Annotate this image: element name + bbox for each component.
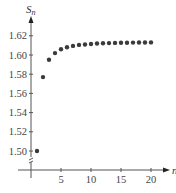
x-axis: 5101520 bbox=[18, 168, 170, 186]
data-point bbox=[95, 41, 99, 45]
x-tick-label: 15 bbox=[116, 174, 127, 185]
y-tick-label: 1.50 bbox=[9, 146, 27, 157]
data-point bbox=[119, 41, 123, 45]
y-tick-label: 1.54 bbox=[9, 107, 28, 118]
data-point bbox=[47, 58, 51, 62]
data-point bbox=[101, 41, 105, 45]
scatter-chart: 1.501.521.541.561.581.601.62 5101520 Sn … bbox=[0, 0, 176, 193]
data-point bbox=[89, 42, 93, 46]
y-tick-label: 1.52 bbox=[9, 126, 27, 137]
x-axis-label: n bbox=[172, 164, 176, 176]
x-tick-label: 10 bbox=[86, 174, 97, 185]
data-point bbox=[125, 41, 129, 45]
data-point bbox=[113, 41, 117, 45]
data-point bbox=[77, 43, 81, 47]
data-point bbox=[59, 47, 63, 51]
x-tick-label: 20 bbox=[146, 174, 157, 185]
data-point bbox=[41, 75, 45, 79]
y-tick-label: 1.62 bbox=[9, 30, 27, 41]
data-point bbox=[137, 40, 141, 44]
x-tick-label: 5 bbox=[58, 174, 63, 185]
data-point bbox=[143, 40, 147, 44]
y-tick-label: 1.58 bbox=[9, 69, 27, 80]
data-point bbox=[71, 44, 75, 48]
y-tick-label: 1.60 bbox=[9, 50, 27, 61]
y-axis: 1.501.521.541.561.581.601.62 bbox=[9, 16, 34, 178]
data-point bbox=[65, 45, 69, 49]
y-tick-label: 1.56 bbox=[9, 88, 27, 99]
data-point bbox=[131, 40, 135, 44]
data-point bbox=[35, 149, 39, 153]
data-point bbox=[107, 41, 111, 45]
data-point bbox=[149, 40, 153, 44]
y-axis-label: Sn bbox=[26, 3, 36, 17]
data-point bbox=[83, 42, 87, 46]
data-point bbox=[53, 51, 57, 55]
data-points bbox=[35, 40, 153, 153]
